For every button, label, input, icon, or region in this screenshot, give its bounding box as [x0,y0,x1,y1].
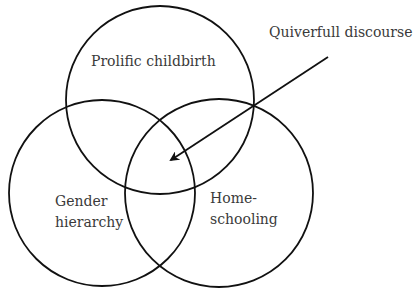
label-quiverfull-discourse: Quiverfull discourse [269,23,413,42]
label-homeschooling-2: schooling [210,210,278,229]
label-gender-hierarchy-1: Gender [55,192,107,211]
label-homeschooling-1: Home- [210,189,257,208]
label-prolific-childbirth: Prolific childbirth [91,52,216,71]
label-gender-hierarchy-2: hierarchy [55,213,123,232]
venn-diagram [0,0,417,288]
